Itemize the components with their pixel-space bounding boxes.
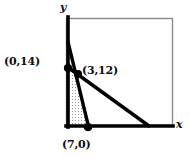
point-marker-7-0: [84, 123, 93, 132]
point-label-7-0: (7,0): [62, 139, 91, 150]
plot-canvas: [0, 0, 190, 158]
point-label-0-14: (0,14): [4, 56, 40, 67]
point-marker-3-12: [74, 70, 82, 78]
point-label-3-12: (3,12): [82, 65, 118, 76]
coordinate-diagram: y x (0,14) (3,12) (7,0): [0, 0, 190, 158]
point-marker-0-14: [64, 64, 72, 72]
y-axis-label: y: [60, 2, 66, 13]
x-axis-label: x: [176, 119, 183, 130]
